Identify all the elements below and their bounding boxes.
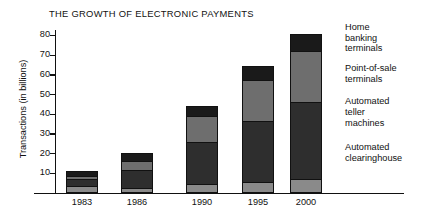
y-tick-70: 70 — [0, 50, 50, 59]
bar-1990[interactable] — [186, 106, 218, 193]
chart-legend: HomebankingterminalsPoint-of-saletermina… — [345, 22, 423, 173]
bar-segment[interactable] — [291, 102, 321, 179]
y-tick-mark — [50, 55, 55, 56]
x-axis-line — [34, 193, 404, 194]
y-tick-50: 50 — [0, 90, 50, 99]
y-tick-mark — [50, 173, 55, 174]
legend-item-label: machines — [345, 118, 423, 129]
legend-item-label: Automated — [345, 96, 423, 107]
x-tick-label-1986: 1986 — [107, 197, 167, 207]
y-tick-label: 80 — [6, 30, 50, 39]
bar-segment[interactable] — [122, 161, 152, 170]
bar-segment[interactable] — [291, 179, 321, 192]
y-tick-mark — [50, 74, 55, 75]
legend-item-label: Point-of-sale — [345, 63, 423, 74]
legend-item-label: terminals — [345, 74, 423, 85]
bar-segment[interactable] — [243, 182, 273, 192]
bar-segment[interactable] — [67, 179, 97, 186]
y-tick-mark — [50, 153, 55, 154]
legend-item-label: Automated — [345, 142, 423, 153]
chart-canvas: THE GROWTH OF ELECTRONIC PAYMENTS Transa… — [0, 0, 423, 217]
bar-2000[interactable] — [290, 34, 322, 193]
y-tick-label: 10 — [6, 168, 50, 177]
bar-segment[interactable] — [291, 51, 321, 102]
legend-item-label: terminals — [345, 43, 423, 54]
legend-item-label: Home — [345, 22, 423, 33]
legend-item: Homebankingterminals — [345, 22, 423, 54]
bar-1983[interactable] — [66, 171, 98, 193]
y-tick-label: 70 — [6, 50, 50, 59]
y-tick-10: 10 — [0, 168, 50, 177]
bar-segment[interactable] — [187, 116, 217, 143]
bar-segment[interactable] — [187, 107, 217, 116]
legend-item: Automatedtellermachines — [345, 96, 423, 128]
bar-segment[interactable] — [187, 142, 217, 183]
y-tick-label: 40 — [6, 109, 50, 118]
y-tick-mark — [50, 94, 55, 95]
y-tick-30: 30 — [0, 129, 50, 138]
y-tick-80: 80 — [0, 30, 50, 39]
y-tick-60: 60 — [0, 70, 50, 79]
bar-segment[interactable] — [67, 186, 97, 191]
legend-item-label: teller — [345, 107, 423, 118]
y-tick-40: 40 — [0, 109, 50, 118]
legend-item: Automatedclearinghouse — [345, 142, 423, 163]
y-tick-label: 50 — [6, 90, 50, 99]
bar-segment[interactable] — [122, 170, 152, 188]
y-axis-line — [55, 30, 56, 193]
bar-segment[interactable] — [243, 67, 273, 80]
y-tick-mark — [50, 35, 55, 36]
bar-segment[interactable] — [243, 80, 273, 121]
bar-segment[interactable] — [243, 121, 273, 182]
x-tick-label-2000: 2000 — [276, 197, 336, 207]
legend-item-label: banking — [345, 33, 423, 44]
x-tick-label-1983: 1983 — [52, 197, 112, 207]
legend-item-label: clearinghouse — [345, 153, 423, 164]
legend-item: Point-of-saleterminals — [345, 63, 423, 84]
y-tick-20: 20 — [0, 149, 50, 158]
bar-segment[interactable] — [122, 188, 152, 192]
chart-title: THE GROWTH OF ELECTRONIC PAYMENTS — [49, 8, 254, 19]
bar-segment[interactable] — [291, 35, 321, 52]
x-tick-label-1990: 1990 — [172, 197, 232, 207]
y-tick-label: 30 — [6, 129, 50, 138]
bar-segment[interactable] — [187, 184, 217, 192]
y-tick-label: 60 — [6, 70, 50, 79]
y-tick-mark — [50, 133, 55, 134]
y-tick-label: 20 — [6, 149, 50, 158]
bar-1995[interactable] — [242, 66, 274, 192]
y-tick-mark — [50, 114, 55, 115]
bar-1986[interactable] — [121, 153, 153, 192]
